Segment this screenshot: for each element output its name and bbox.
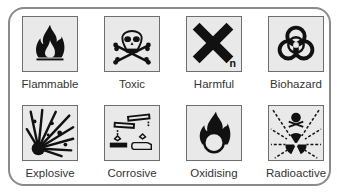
- hazard-corrosive: Corrosive: [94, 105, 170, 179]
- explosion-icon: [22, 105, 78, 161]
- hazard-radioactive: Radioactive: [258, 105, 334, 179]
- corrosive-icon: [104, 105, 160, 161]
- skull-crossbones-icon: [104, 16, 160, 72]
- symbol-label: Toxic: [94, 78, 170, 90]
- symbol-label: Harmful: [176, 78, 252, 90]
- flame-over-circle-icon: [186, 105, 242, 161]
- biohazard-icon: [268, 16, 324, 72]
- cross-x-icon: n: [186, 16, 242, 72]
- symbol-label: Radioactive: [258, 167, 334, 179]
- symbol-label: Explosive: [12, 167, 88, 179]
- hazard-harmful: n Harmful: [176, 16, 252, 90]
- hazard-flammable: Flammable: [12, 16, 88, 90]
- hazard-biohazard: Biohazard: [258, 16, 334, 90]
- harmful-mark: n: [229, 57, 235, 69]
- hazard-toxic: Toxic: [94, 16, 170, 90]
- symbol-label: Biohazard: [258, 78, 334, 90]
- hazard-oxidising: Oxidising: [176, 105, 252, 179]
- symbol-label: Flammable: [12, 78, 88, 90]
- radioactive-icon: [268, 105, 324, 161]
- flame-icon: [22, 16, 78, 72]
- hazard-explosive: Explosive: [12, 105, 88, 179]
- symbol-label: Oxidising: [176, 167, 252, 179]
- symbol-label: Corrosive: [94, 167, 170, 179]
